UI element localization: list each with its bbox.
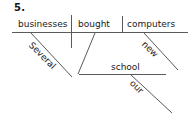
- diagram-word-prepositional-object: school: [111, 62, 140, 72]
- diagram-word-subject: businesses: [18, 19, 67, 29]
- sentence-diagram-figure: 5. businesses bought computers school Se…: [0, 0, 194, 116]
- preposition-slant-for: [78, 33, 95, 74]
- diagram-word-direct-object: computers: [127, 19, 175, 29]
- diagram-word-verb: bought: [78, 19, 110, 29]
- diagram-line-art: [0, 0, 194, 116]
